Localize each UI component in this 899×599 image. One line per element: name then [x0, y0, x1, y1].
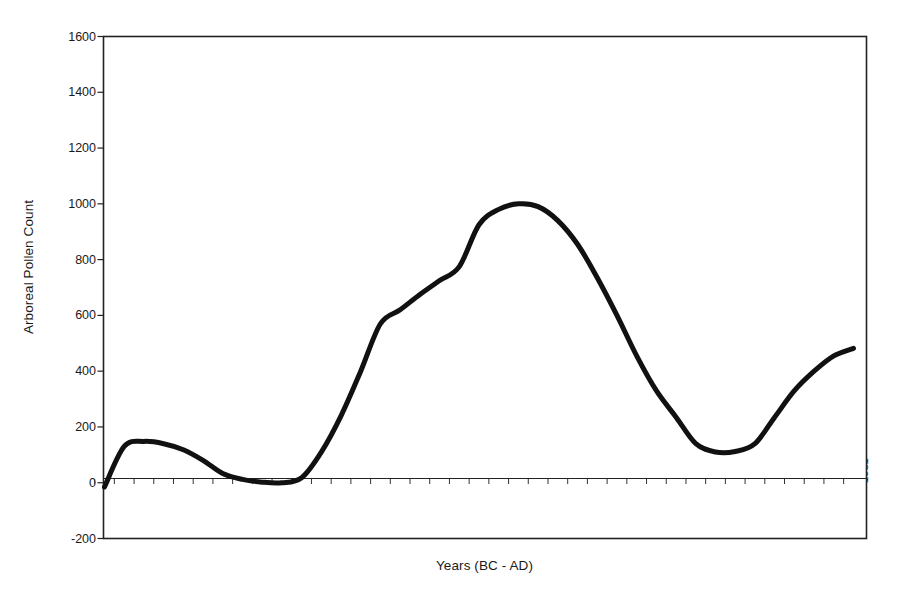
plot-area [0, 0, 899, 599]
y-axis-ticks [98, 37, 104, 539]
pollen-count-chart: Arboreal Pollen Count Years (BC - AD) -2… [0, 0, 899, 599]
plot-frame [104, 37, 867, 539]
